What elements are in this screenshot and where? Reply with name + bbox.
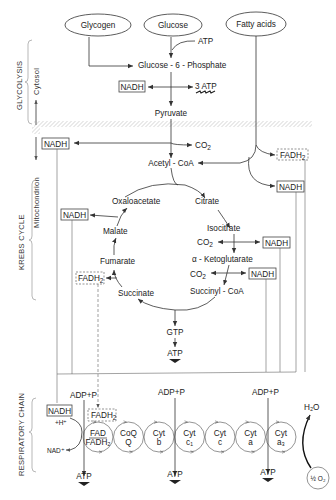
carrier-top-label: CoQ: [120, 429, 137, 438]
oxaloacetate-label: Oxaloacetate: [112, 197, 161, 206]
krebs-cycle-label: KREBS CYCLE: [17, 214, 26, 270]
carrier-bottom-label: b: [157, 438, 162, 447]
malate-to-oxaloacetate-arrow: [117, 208, 127, 226]
glycolysis-label: GLYCOLYSIS: [15, 61, 24, 110]
respiratory-chain-label: RESPIRATORY CHAIN: [17, 393, 26, 476]
carrier-top-label: Cyt: [214, 429, 227, 438]
atp-zigzag-icon: [196, 91, 215, 93]
respiratory-brace: [29, 398, 36, 472]
source-glucose: Glucose: [144, 14, 202, 36]
carrier-bottom-label: c₁: [186, 438, 193, 447]
oxygen-to-water-arrow: [303, 415, 311, 468]
link-co2-label: CO2: [195, 141, 211, 151]
carrier-top-label: Cyt: [275, 429, 288, 438]
adp-p-label-3: ADP+P: [252, 388, 280, 397]
resp-nadh-label: NADH: [48, 407, 71, 416]
membrane-mark: [32, 127, 40, 134]
fatty-acids-nadh-arrow: [249, 157, 275, 186]
succinyl-to-succinate-arrow: [138, 297, 215, 310]
succinate-label: Succinate: [118, 289, 154, 298]
akg-to-succinyl-arrow: [224, 265, 229, 285]
krebs-malate-nadh-label: NADH: [63, 211, 86, 220]
resp-atp-icon-1: [78, 482, 90, 486]
krebs-atp-label: ATP: [167, 349, 183, 358]
oxygen-label: ½ O₂: [311, 475, 326, 482]
adp-p-label-1: ADP+P: [70, 391, 98, 400]
alpha-ketoglutarate-label: α - Ketoglutarate: [192, 255, 253, 264]
link-nadh-label: NADH: [44, 140, 67, 149]
fatty-acids-label: Fatty acids: [236, 20, 276, 29]
h-plus-label: +H⁺: [55, 419, 68, 426]
source-fatty-acids: Fatty acids: [226, 12, 286, 36]
h2o-label: H₂O: [304, 403, 319, 412]
krebs-co2-1-label: CO2: [197, 238, 213, 248]
carrier-top-label: Cyt: [153, 429, 166, 438]
carrier-coq-q: CoQQ: [114, 421, 144, 453]
metabolic-pathway-diagram: GLYCOLYSIS Cytosol Mitochondrion KREBS C…: [0, 0, 336, 500]
malate-label: Malate: [103, 227, 128, 236]
carrier-top-label: Cyt: [183, 429, 196, 438]
succinyl-coa-label: Succinyl - CoA: [190, 287, 244, 296]
carrier-bottom-label: FADH₂: [85, 438, 110, 447]
resp-atp-label-2: ATP: [167, 470, 183, 479]
nad-plus-label: NAD⁺: [47, 447, 65, 454]
succinate-to-fumarate-arrow: [114, 270, 122, 287]
link-co2-arrow: [171, 143, 192, 145]
adp-p-label-2: ADP+P: [158, 388, 186, 397]
carrier-top-label: FAD: [90, 429, 106, 438]
carrier-bottom-label: a₃: [277, 438, 285, 447]
atp-input-curve: [172, 41, 195, 50]
krebs-malate-nadh-arrow: [90, 215, 118, 217]
g6p-label: Glucose - 6 - Phosphate: [138, 61, 227, 70]
resp-atp-icon-2: [169, 480, 181, 484]
carrier-cyt-a: Cyta: [236, 421, 266, 453]
fumarate-label: Fumarate: [100, 257, 135, 266]
carrier-cyt-b: Cytb: [144, 421, 174, 453]
resp-atp-label-1: ATP: [76, 472, 92, 481]
isocitrate-label: Isocitrate: [207, 224, 241, 233]
krebs-nadh-1-label: NADH: [265, 239, 288, 248]
pyruvate-label: Pyruvate: [155, 109, 188, 118]
cytosol-label: Cytosol: [32, 68, 41, 95]
krebs-co2-2-label: CO2: [190, 270, 206, 280]
side-labels: GLYCOLYSIS Cytosol Mitochondrion KREBS C…: [15, 40, 41, 476]
acetyl-coa-label: Acetyl - CoA: [148, 159, 194, 168]
gtp-label: GTP: [167, 328, 184, 337]
glucose-label: Glucose: [158, 21, 188, 30]
electron-carriers: FADFADH₂CoQQCytbCytc₁CytcCytaCyta₃: [83, 421, 296, 453]
nadh-oxidation-curve: [66, 418, 82, 450]
carrier-bottom-label: Q: [125, 438, 131, 447]
carrier-bottom-label: a: [248, 438, 253, 447]
carrier-cyt-c-: Cytc₁: [175, 421, 205, 453]
fumarate-to-malate-arrow: [114, 238, 116, 255]
carrier-top-label: Cyt: [244, 429, 257, 438]
glycolysis-brace: [25, 40, 32, 124]
mitochondrial-membrane: [34, 121, 312, 127]
citrate-label: Citrate: [195, 197, 220, 206]
oxaloacetate-to-citrate-arrow: [125, 184, 205, 198]
carrier-bottom-label: c: [218, 438, 222, 447]
glycolysis-atp-label: 3 ATP: [195, 82, 217, 91]
glycolysis-nadh-label: NADH: [120, 83, 143, 92]
krebs-atp-icon: [169, 359, 181, 363]
glycogen-arrow: [89, 37, 133, 66]
acetyl-into-cycle: [171, 168, 178, 185]
resp-atp-label-3: ATP: [260, 468, 276, 477]
carrier-fad-fadh-: FADFADH₂: [83, 421, 113, 453]
resp-atp-icon-3: [262, 478, 274, 482]
source-glycogen: Glycogen: [65, 14, 131, 36]
krebs-nadh-2-label: NADH: [251, 270, 274, 279]
atp-input-label: ATP: [198, 37, 214, 46]
fatty-acids-fadh2-arrow: [256, 145, 275, 155]
link-fa-nadh-label: NADH: [279, 183, 302, 192]
mitochondrion-label: Mitochondrion: [32, 177, 41, 228]
glycogen-label: Glycogen: [81, 21, 116, 30]
carrier-cyt-a-: Cyta₃: [266, 421, 296, 453]
carrier-cyt-c: Cytc: [205, 421, 235, 453]
